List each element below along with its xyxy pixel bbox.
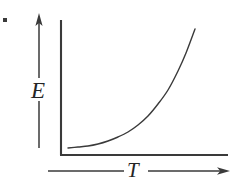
x-axis-label: T bbox=[127, 160, 139, 181]
bullet-dot-icon bbox=[3, 18, 7, 22]
t-axis-pointer-arrow bbox=[48, 167, 230, 175]
data-curve-exponential bbox=[68, 29, 195, 148]
y-axis-label: E bbox=[31, 79, 45, 102]
figure-container: E T bbox=[0, 0, 237, 183]
plot-axes bbox=[60, 20, 228, 155]
